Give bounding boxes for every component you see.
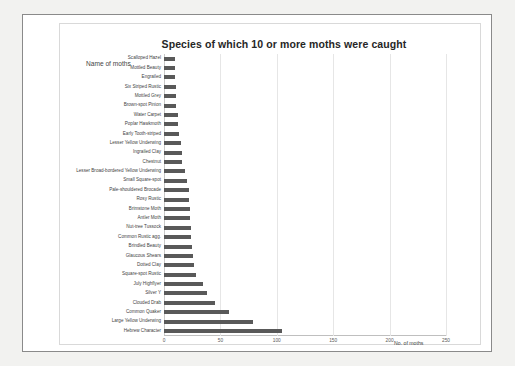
category-label: Brimstone Moth: [129, 207, 161, 212]
x-tick-label: 50: [218, 338, 223, 343]
bar-row[interactable]: Lesser Yellow Underwing: [164, 139, 446, 148]
x-axis-title: No. of moths: [394, 340, 423, 346]
bar[interactable]: [164, 235, 191, 239]
category-label: Clouded Drab: [133, 301, 161, 306]
bar[interactable]: [164, 282, 203, 286]
category-label: Scalloped Hazel: [128, 56, 161, 61]
x-tick-label: 150: [329, 338, 337, 343]
category-label: Common Quaker: [126, 310, 161, 315]
bar-row[interactable]: Scalloped Hazel: [164, 54, 446, 63]
bar[interactable]: [164, 179, 187, 183]
category-label: Mottled Grey: [135, 94, 161, 99]
bar-row[interactable]: Brown-spot Pinion: [164, 101, 446, 110]
bar-series: Scalloped HazelMottled BeautyEngrailedSi…: [164, 54, 446, 336]
category-label: Mottled Beauty: [130, 66, 161, 71]
category-label: Small Square-spot: [123, 178, 161, 183]
x-tick-label: 100: [273, 338, 281, 343]
bar[interactable]: [164, 207, 190, 211]
bar[interactable]: [164, 132, 179, 136]
chart-object-frame[interactable]: Species of which 10 or more moths were c…: [59, 23, 481, 345]
bar-row[interactable]: Hebrew Character: [164, 326, 446, 335]
bar-row[interactable]: Small Square-spot: [164, 176, 446, 185]
category-label: Engrailed: [142, 75, 161, 80]
category-label: Nut-tree Tussock: [126, 225, 161, 230]
category-label: Silver Y: [145, 291, 161, 296]
bar-row[interactable]: July Highflyer: [164, 279, 446, 288]
bar-row[interactable]: Common Quaker: [164, 308, 446, 317]
category-label: Lesser Broad-bordered Yellow Underwing: [76, 169, 161, 174]
category-label: Dotted Clay: [137, 263, 161, 268]
bar-row[interactable]: Water Carpet: [164, 110, 446, 119]
x-tick-label: 0: [163, 338, 166, 343]
category-label: Water Carpet: [134, 113, 161, 118]
bar[interactable]: [164, 57, 175, 61]
bar[interactable]: [164, 94, 176, 98]
bar[interactable]: [164, 198, 189, 202]
bar[interactable]: [164, 254, 193, 258]
bar[interactable]: [164, 273, 196, 277]
chart-title: Species of which 10 or more moths were c…: [60, 38, 480, 50]
category-label: Antler Moth: [138, 216, 162, 221]
bar-row[interactable]: Mottled Beauty: [164, 63, 446, 72]
bar-row[interactable]: Mottled Grey: [164, 92, 446, 101]
bar[interactable]: [164, 66, 175, 70]
bar-row[interactable]: Square-spot Rustic: [164, 270, 446, 279]
bar[interactable]: [164, 245, 192, 249]
category-label: Pale-shouldered Brocade: [109, 188, 161, 193]
bar[interactable]: [164, 169, 185, 173]
category-label: Hebrew Character: [124, 329, 161, 334]
category-label: Chestnut: [143, 160, 161, 165]
bar[interactable]: [164, 85, 176, 89]
x-tick-label: 200: [386, 338, 394, 343]
bar-row[interactable]: Ingrailed Clay: [164, 148, 446, 157]
bar[interactable]: [164, 122, 178, 126]
plot-area: Scalloped HazelMottled BeautyEngrailedSi…: [164, 54, 446, 336]
category-label: Square-spot Rustic: [122, 272, 161, 277]
bar-row[interactable]: Nut-tree Tussock: [164, 223, 446, 232]
bar[interactable]: [164, 75, 175, 79]
bar[interactable]: [164, 310, 229, 314]
bar-row[interactable]: Common Rustic agg.: [164, 232, 446, 241]
bar-row[interactable]: Engrailed: [164, 73, 446, 82]
bar-row[interactable]: Brindled Beauty: [164, 242, 446, 251]
y-axis-title: Name of moths: [86, 60, 131, 67]
bar-row[interactable]: Chestnut: [164, 157, 446, 166]
bar-row[interactable]: Six Striped Rustic: [164, 82, 446, 91]
bar[interactable]: [164, 320, 253, 324]
bar-row[interactable]: Rosy Rustic: [164, 195, 446, 204]
bar[interactable]: [164, 104, 176, 108]
bar-row[interactable]: Poplar Hawkmoth: [164, 120, 446, 129]
x-tick-label: 250: [442, 338, 450, 343]
bar-row[interactable]: Glaucous Shears: [164, 251, 446, 260]
category-label: Lesser Yellow Underwing: [110, 141, 161, 146]
category-label: Large Yellow Underwing: [112, 319, 161, 324]
bar[interactable]: [164, 301, 215, 305]
category-label: Brown-spot Pinion: [124, 103, 161, 108]
category-label: Early Tooth-striped: [123, 132, 161, 137]
bar[interactable]: [164, 291, 207, 295]
bar-row[interactable]: Pale-shouldered Brocade: [164, 185, 446, 194]
bar[interactable]: [164, 188, 189, 192]
bar[interactable]: [164, 226, 191, 230]
bar[interactable]: [164, 151, 182, 155]
bar[interactable]: [164, 141, 181, 145]
bar[interactable]: [164, 329, 282, 333]
bar[interactable]: [164, 113, 178, 117]
category-label: Rosy Rustic: [136, 197, 161, 202]
bar-row[interactable]: Large Yellow Underwing: [164, 317, 446, 326]
bar[interactable]: [164, 263, 194, 267]
category-label: Six Striped Rustic: [125, 85, 161, 90]
bar-row[interactable]: Lesser Broad-bordered Yellow Underwing: [164, 167, 446, 176]
bar-row[interactable]: Clouded Drab: [164, 298, 446, 307]
bar[interactable]: [164, 160, 182, 164]
bar-row[interactable]: Early Tooth-striped: [164, 129, 446, 138]
screenshot-canvas: Species of which 10 or more moths were c…: [0, 0, 515, 366]
bar-row[interactable]: Brimstone Moth: [164, 204, 446, 213]
category-label: Poplar Hawkmoth: [125, 122, 161, 127]
bar-row[interactable]: Antler Moth: [164, 214, 446, 223]
gridline: [446, 54, 447, 336]
bar[interactable]: [164, 216, 190, 220]
bar-row[interactable]: Dotted Clay: [164, 261, 446, 270]
category-label: Ingrailed Clay: [133, 150, 161, 155]
bar-row[interactable]: Silver Y: [164, 289, 446, 298]
